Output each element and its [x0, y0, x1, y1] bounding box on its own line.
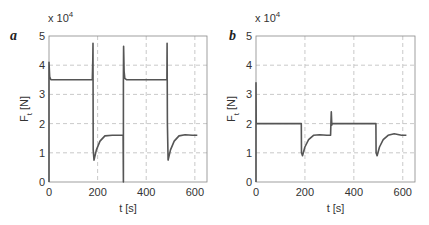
x-tick-label: 600 — [394, 186, 412, 198]
y-tick-label: 1 — [246, 147, 252, 159]
plot-area — [49, 36, 207, 182]
y-tick-label: 0 — [246, 176, 252, 188]
y-tick-label: 3 — [246, 88, 252, 100]
x-tick-label: 0 — [46, 186, 52, 198]
x-axis-label: t [s] — [119, 202, 137, 214]
y-multiplier: x 104 — [255, 10, 281, 24]
y-tick-label: 5 — [246, 30, 252, 42]
y-axis-label: Ft [N] — [18, 96, 34, 122]
x-tick-label: 200 — [296, 186, 314, 198]
x-axis-label: t [s] — [327, 202, 345, 214]
y-tick-label: 5 — [39, 30, 45, 42]
panel-label: b — [229, 28, 236, 43]
plot-area — [256, 36, 415, 182]
y-tick-label: 2 — [39, 118, 45, 130]
y-tick-label: 2 — [246, 118, 252, 130]
panel-label: a — [10, 28, 17, 43]
chart-panel-b: 0200400600012345x 104bt [s]Ft [N] — [225, 10, 415, 214]
y-multiplier: x 104 — [48, 10, 74, 24]
x-tick-label: 400 — [345, 186, 363, 198]
x-tick-label: 600 — [186, 186, 204, 198]
figure: 0200400600012345x 104at [s]Ft [N]0200400… — [0, 0, 429, 225]
x-tick-label: 0 — [253, 186, 259, 198]
chart-panel-a: 0200400600012345x 104at [s]Ft [N] — [10, 10, 207, 214]
y-tick-label: 3 — [39, 88, 45, 100]
y-axis-label: Ft [N] — [225, 96, 241, 122]
x-tick-label: 200 — [88, 186, 106, 198]
y-tick-label: 4 — [246, 59, 252, 71]
x-tick-label: 400 — [137, 186, 155, 198]
y-tick-label: 4 — [39, 59, 45, 71]
y-tick-label: 1 — [39, 147, 45, 159]
y-tick-label: 0 — [39, 176, 45, 188]
